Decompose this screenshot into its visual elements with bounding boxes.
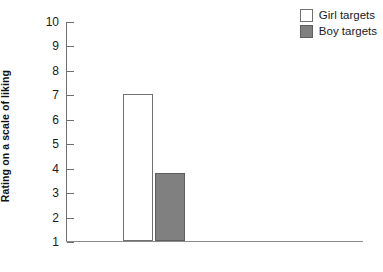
bar-girl-raters-girl-targets: [123, 94, 153, 241]
legend-swatch-girl-targets: [300, 9, 313, 22]
y-tick-label: 2: [52, 212, 59, 224]
y-tick-label: 10: [46, 16, 59, 28]
y-tick-mark: [67, 46, 74, 47]
y-tick-mark: [67, 22, 74, 23]
y-tick-mark: [67, 71, 74, 72]
y-axis-line: [66, 22, 67, 242]
y-tick-label: 5: [52, 138, 59, 150]
y-tick-mark: [67, 144, 74, 145]
y-tick-mark: [67, 193, 74, 194]
y-tick-label: 9: [52, 40, 59, 52]
x-axis-line: [66, 241, 363, 242]
y-tick-label: 4: [52, 163, 59, 175]
y-tick-label: 7: [52, 89, 59, 101]
y-tick-label: 6: [52, 114, 59, 126]
bar-girl-raters-boy-targets: [155, 173, 185, 241]
y-tick-mark: [67, 95, 74, 96]
y-tick-mark: [67, 169, 74, 170]
legend-label-girl-targets: Girl targets: [319, 10, 375, 22]
y-axis-title: Rating on a scale of liking: [0, 0, 26, 272]
bar-chart: Rating on a scale of liking Girl targets…: [0, 0, 383, 272]
y-tick-label: 3: [52, 187, 59, 199]
plot-area: 10987654321: [66, 22, 366, 242]
y-tick-label: 1: [52, 236, 59, 248]
legend-item-girl-targets: Girl targets: [300, 9, 377, 22]
y-tick-mark: [67, 242, 74, 243]
y-tick-mark: [67, 120, 74, 121]
y-tick-label: 8: [52, 65, 59, 77]
y-tick-mark: [67, 218, 74, 219]
